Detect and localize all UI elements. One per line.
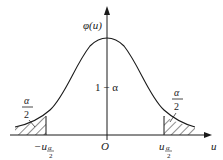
- svg-text:−u: −u: [34, 140, 47, 152]
- left-critical-value-label: −u α 2: [34, 140, 54, 160]
- svg-text:α: α: [174, 87, 180, 98]
- svg-text:2: 2: [174, 101, 179, 112]
- y-axis-label: φ(u): [83, 19, 102, 32]
- right-critical-value-label: u α 2: [159, 140, 172, 160]
- x-axis-label: u: [211, 140, 217, 152]
- center-area-label: 1 − α: [95, 81, 118, 93]
- svg-text:2: 2: [167, 152, 171, 160]
- svg-text:2: 2: [24, 109, 29, 120]
- y-axis-arrow-icon: [104, 6, 110, 15]
- x-axis-arrow-icon: [204, 132, 212, 138]
- svg-text:2: 2: [49, 152, 53, 160]
- origin-label: O: [101, 140, 109, 152]
- svg-text:α: α: [24, 95, 30, 106]
- svg-text:u: u: [159, 140, 165, 152]
- normal-distribution-diagram: φ(u) u O 1 − α α 2 α 2 −u α 2 u α 2: [0, 0, 223, 160]
